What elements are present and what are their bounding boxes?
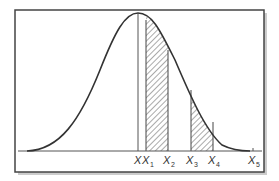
svg-text:1: 1 (150, 161, 154, 168)
svg-text:4: 4 (216, 161, 220, 168)
svg-text:X: X (185, 154, 194, 166)
normal-curve-diagram: X X 1 X 2 X 3 X 4 X 5 (0, 0, 279, 181)
mean-label: X (133, 154, 142, 166)
svg-text:X: X (162, 154, 171, 166)
svg-text:X: X (207, 154, 216, 166)
svg-text:5: 5 (256, 161, 260, 168)
svg-text:X: X (141, 154, 150, 166)
svg-text:3: 3 (194, 161, 198, 168)
svg-text:2: 2 (171, 161, 175, 168)
svg-text:X: X (247, 154, 256, 166)
